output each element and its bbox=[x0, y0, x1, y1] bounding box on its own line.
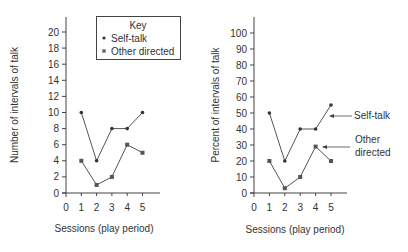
y-tick-label: 6 bbox=[53, 139, 59, 150]
y-tick-label: 12 bbox=[48, 91, 60, 102]
y-tick-label: 90 bbox=[236, 44, 248, 55]
x-tick-label: 0 bbox=[63, 202, 69, 213]
circle-marker-icon bbox=[125, 127, 129, 131]
series-line-self-talk bbox=[81, 113, 142, 161]
annotation-other-text-1: Other bbox=[355, 134, 381, 145]
legend: Key Self-talk Other directed bbox=[97, 17, 181, 60]
annotation-self-talk: Self-talk bbox=[329, 110, 391, 121]
y-tick-label: 10 bbox=[48, 107, 60, 118]
legend-title: Key bbox=[129, 20, 146, 31]
circle-marker-icon bbox=[95, 159, 99, 163]
x-tick-label: 2 bbox=[282, 202, 288, 213]
x-tick-label: 3 bbox=[109, 202, 115, 213]
circle-marker-icon bbox=[298, 127, 302, 131]
series-line-other-directed bbox=[81, 145, 142, 185]
arrow-head-icon bbox=[322, 145, 327, 149]
y-tick-label: 14 bbox=[48, 75, 60, 86]
x-tick-label: 4 bbox=[124, 202, 130, 213]
y-tick-label: 100 bbox=[230, 28, 247, 39]
square-marker-icon bbox=[267, 159, 271, 163]
circle-marker-icon bbox=[102, 36, 105, 39]
left-y-axis-label: Number of intervals of talk bbox=[9, 46, 20, 163]
y-tick-label: 4 bbox=[53, 155, 59, 166]
square-marker-icon bbox=[110, 175, 114, 179]
y-tick-label: 8 bbox=[53, 123, 59, 134]
y-tick-label: 40 bbox=[236, 124, 248, 135]
x-tick-label: 5 bbox=[328, 202, 334, 213]
x-tick-label: 1 bbox=[79, 202, 85, 213]
y-tick-label: 80 bbox=[236, 60, 248, 71]
y-tick-label: 70 bbox=[236, 76, 248, 87]
circle-marker-icon bbox=[329, 103, 333, 107]
x-tick-label: 1 bbox=[267, 202, 273, 213]
right-x-axis-label: Sessions (play period) bbox=[246, 224, 345, 235]
x-tick-label: 3 bbox=[297, 202, 303, 213]
annotation-other-text-2: directed bbox=[355, 147, 391, 158]
y-tick-label: 2 bbox=[53, 171, 59, 182]
left-x-axis-label: Sessions (play period) bbox=[55, 223, 154, 234]
figure: 02468101214161820 012345 Number of inter… bbox=[0, 0, 408, 252]
arrow-head-icon bbox=[329, 114, 334, 118]
circle-marker-icon bbox=[110, 127, 114, 131]
square-marker-icon bbox=[95, 183, 99, 187]
circle-marker-icon bbox=[268, 111, 272, 115]
square-marker-icon bbox=[125, 143, 129, 147]
circle-marker-icon bbox=[283, 159, 287, 163]
right-y-axis-label: Percent of intervals of talk bbox=[210, 46, 221, 162]
left-x-ticks: 012345 bbox=[63, 193, 146, 213]
square-marker-icon bbox=[102, 49, 105, 52]
legend-other-directed: Other directed bbox=[111, 46, 174, 57]
y-tick-label: 30 bbox=[236, 140, 248, 151]
circle-marker-icon bbox=[314, 127, 318, 131]
annotation-other-directed: Other directed bbox=[322, 134, 391, 158]
square-marker-icon bbox=[314, 145, 318, 149]
annotation-self-talk-text: Self-talk bbox=[354, 110, 391, 121]
y-tick-label: 20 bbox=[236, 156, 248, 167]
legend-self-talk: Self-talk bbox=[111, 33, 148, 44]
square-marker-icon bbox=[298, 175, 302, 179]
left-y-ticks: 02468101214161820 bbox=[48, 27, 66, 199]
x-tick-label: 5 bbox=[140, 202, 146, 213]
y-tick-label: 20 bbox=[48, 27, 60, 38]
square-marker-icon bbox=[141, 151, 145, 155]
right-y-ticks: 0102030405060708090100 bbox=[230, 28, 254, 199]
x-tick-label: 4 bbox=[313, 202, 319, 213]
x-tick-label: 0 bbox=[251, 202, 257, 213]
y-tick-label: 10 bbox=[236, 172, 248, 183]
square-marker-icon bbox=[283, 186, 287, 190]
x-tick-label: 2 bbox=[94, 202, 100, 213]
y-tick-label: 0 bbox=[241, 188, 247, 199]
right-chart: 0102030405060708090100 012345 Percent of… bbox=[210, 17, 391, 235]
y-tick-label: 60 bbox=[236, 92, 248, 103]
y-tick-label: 16 bbox=[48, 59, 60, 70]
left-series bbox=[79, 111, 144, 187]
y-tick-label: 18 bbox=[48, 43, 60, 54]
circle-marker-icon bbox=[80, 111, 84, 115]
right-x-ticks: 012345 bbox=[251, 193, 334, 213]
square-marker-icon bbox=[329, 159, 333, 163]
y-tick-label: 50 bbox=[236, 108, 248, 119]
square-marker-icon bbox=[79, 159, 83, 163]
series-line-other-directed bbox=[269, 147, 331, 189]
y-tick-label: 0 bbox=[53, 188, 59, 199]
left-chart: 02468101214161820 012345 Number of inter… bbox=[9, 17, 181, 235]
circle-marker-icon bbox=[141, 111, 145, 115]
